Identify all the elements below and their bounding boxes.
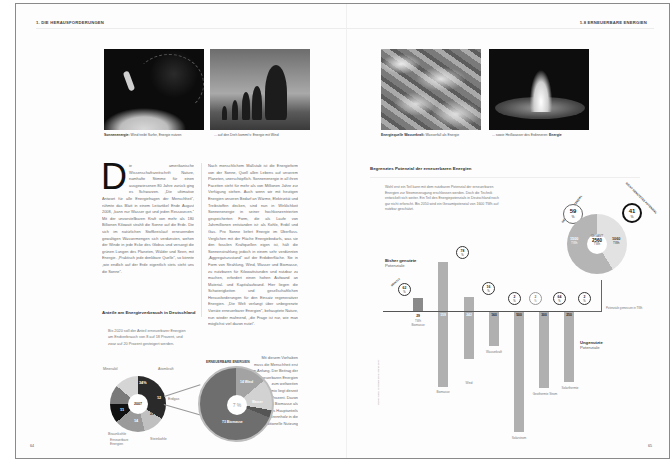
bar-value: 159: [435, 313, 451, 317]
drop-cap: D: [102, 163, 127, 191]
bar-label: Biomasse: [428, 390, 458, 394]
percent-bubble: 78%: [456, 246, 469, 259]
pie-center-label: GESAMT 2560 TWh: [584, 235, 610, 246]
tree: [252, 86, 262, 120]
bar-label: Biomasse: [403, 323, 433, 327]
section-title: Anteile am Energieverbrauch in Deutschla…: [102, 310, 195, 315]
unused-percent-bubble: 41%: [622, 203, 642, 223]
donut-arc-title: ERNEUERBARE ENERGIEN: [206, 360, 250, 364]
donut-callout: Braunkohle: [108, 432, 126, 436]
donut-callout: Erdgas: [168, 397, 179, 401]
donut-center-label: 7 %: [227, 395, 247, 415]
bar-label: Wind: [454, 381, 484, 385]
header-rule: [36, 28, 654, 29]
chart-title: Begrenztes Potenzial der erneuerbaren En…: [370, 166, 472, 171]
bar-used: [438, 262, 448, 311]
geyser-photo: [489, 49, 589, 130]
geyser-plume: [519, 57, 564, 112]
donut-callout: Atomkraft: [158, 367, 173, 371]
photo-caption: ... auf den Dreh kommt's: Energie mit Wi…: [214, 133, 279, 137]
body-column-1: Die amerikanische Wissenschaftszeitschri…: [102, 163, 194, 319]
bar-label: Geothermie Strom: [530, 392, 560, 396]
bar-value: 300: [536, 313, 552, 317]
tree: [242, 92, 250, 120]
donut-callout: Mineralöl: [103, 367, 118, 371]
tree: [222, 106, 227, 120]
bar-value: 500: [511, 313, 527, 317]
chart-note: Potenziale gemessen in TWh: [606, 306, 642, 310]
bar-value: 160: [486, 313, 502, 317]
bar-used: [413, 298, 423, 311]
percent-bubble: 64%: [553, 292, 566, 305]
segment-value: 14: [134, 419, 138, 423]
bar-label: Solarstrom: [504, 436, 534, 440]
gutter: [346, 4, 347, 458]
tree: [265, 65, 287, 120]
percent-bubble: 2%: [508, 292, 521, 305]
percent-bubble: 2%: [529, 292, 542, 305]
donut-center-label: 2007: [128, 394, 148, 414]
segment-value: Wasser: [252, 400, 263, 404]
donut-callout: Erneuerbare Energien: [110, 438, 140, 446]
tree: [232, 100, 238, 120]
bar-value: 242: [461, 313, 477, 317]
bar-unused: [564, 312, 574, 382]
photo-caption: Energiequelle Wasserkraft: Wasserfall al…: [381, 133, 459, 137]
segment-value: 73 Biomasse: [222, 420, 243, 424]
bar-unused: [464, 312, 474, 359]
percent-bubble: 16%: [482, 282, 495, 295]
photo-caption: Sonnenenergie: Wind treibt Surfer, Energ…: [104, 133, 181, 137]
connector-line: [573, 311, 601, 312]
bar-unused: [438, 312, 448, 387]
legend-used: Bisher genutztePotenziale: [385, 258, 416, 268]
page-number-left: 64: [30, 444, 34, 448]
segment-value: 12: [157, 396, 161, 400]
energy-mix-donut: 2007: [110, 376, 166, 432]
chart-title-rule: [370, 177, 640, 178]
bar-unused: [539, 312, 549, 388]
connector-line: [601, 280, 602, 312]
segment-value: 23: [150, 412, 154, 416]
segment-value: 34%: [139, 381, 147, 385]
segment-value: 14 Wind: [240, 380, 253, 384]
section-intro: Bis 2020 soll der Anteil erneuerbarer En…: [108, 328, 190, 347]
body-column-2: Nach menschlichem Maßstab ist die Energi…: [208, 163, 298, 349]
source-credit: Quelle: BMU, Leitstudie 2008; Stand: 200…: [377, 360, 380, 405]
spray-arc: [134, 54, 204, 114]
pie-right-value: 1060TWh: [612, 238, 620, 245]
bar-value: 29: [410, 314, 426, 318]
column-divider: [201, 163, 202, 317]
waterfall-photo: [381, 49, 481, 130]
legend-unused: UngenutztePotenziale: [580, 340, 603, 350]
trees-photo: [210, 49, 310, 130]
bar-label: Solarthermie: [555, 386, 585, 390]
chart-intro: Wohl erst ein Teil kann mit dem nutzbare…: [385, 185, 503, 213]
page-number-right: 65: [648, 444, 652, 448]
bar-unused: [489, 312, 499, 346]
bar-unused: [514, 312, 524, 432]
pie-left-value: 1500TWh: [570, 238, 578, 245]
photo-caption: ... sowie Heißwasser des Erdinneren: Ene…: [492, 133, 562, 137]
surfer-photo: [104, 49, 204, 130]
percent-bubble: 2%: [578, 292, 591, 305]
bar-value: 250: [561, 313, 577, 317]
running-head-right: 1.8 ERNEUERBARE ENERGIEN: [580, 20, 647, 25]
bar-label: Wasserkraft: [479, 350, 509, 354]
bar-used: [464, 297, 474, 311]
donut-callout: Steinkohle: [150, 437, 167, 441]
segment-value: 11: [120, 408, 124, 412]
percent-bubble: 62%: [398, 283, 411, 296]
running-head-left: 1. DIE HERAUSFORDERUNGEN: [36, 20, 104, 25]
renewables-donut: 7 %: [198, 366, 274, 442]
